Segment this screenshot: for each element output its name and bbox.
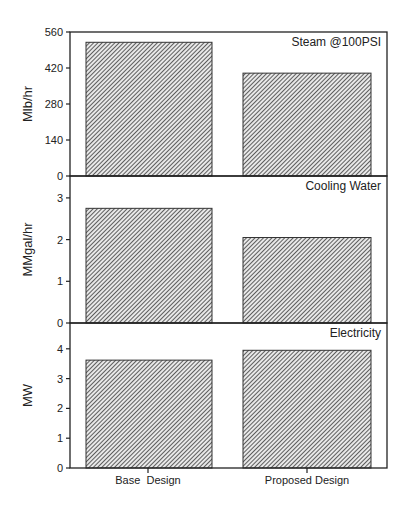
bar-proposed-design bbox=[243, 73, 371, 176]
y-tick-label: 1 bbox=[57, 275, 63, 287]
y-tick-label: 3 bbox=[57, 192, 63, 204]
panel-title: Electricity bbox=[330, 326, 381, 340]
chart-panel-2: 0123Cooling WaterMMgal/hr bbox=[20, 176, 387, 329]
y-tick-label: 140 bbox=[45, 134, 63, 146]
y-tick-label: 0 bbox=[57, 462, 63, 474]
y-axis-label: MMgal/hr bbox=[20, 222, 35, 277]
bar-proposed-design bbox=[243, 238, 371, 323]
chart-panel-1: 0140280420560Steam @100PSIMlb/hr bbox=[20, 26, 387, 182]
bar-base-design bbox=[86, 208, 212, 323]
y-tick-label: 2 bbox=[57, 234, 63, 246]
y-axis-label: Mlb/hr bbox=[20, 85, 35, 122]
bar-proposed-design bbox=[243, 350, 371, 468]
y-tick-label: 1 bbox=[57, 432, 63, 444]
y-tick-label: 280 bbox=[45, 98, 63, 110]
stacked-bar-chart: 0140280420560Steam @100PSIMlb/hr0123Cool… bbox=[0, 0, 409, 513]
y-tick-label: 4 bbox=[57, 343, 63, 355]
x-category-label: Proposed Design bbox=[265, 474, 349, 486]
y-tick-label: 3 bbox=[57, 373, 63, 385]
chart-panel-3: 01234ElectricityMW bbox=[20, 323, 387, 474]
panel-title: Cooling Water bbox=[305, 179, 381, 193]
bar-base-design bbox=[86, 42, 212, 176]
x-category-label: Base Design bbox=[115, 474, 180, 486]
y-tick-label: 560 bbox=[45, 26, 63, 38]
bar-base-design bbox=[86, 360, 212, 468]
y-tick-label: 2 bbox=[57, 402, 63, 414]
y-axis-label: MW bbox=[20, 383, 35, 407]
panel-title: Steam @100PSI bbox=[291, 35, 381, 49]
y-tick-label: 0 bbox=[57, 170, 63, 182]
y-tick-label: 0 bbox=[57, 317, 63, 329]
y-tick-label: 420 bbox=[45, 62, 63, 74]
